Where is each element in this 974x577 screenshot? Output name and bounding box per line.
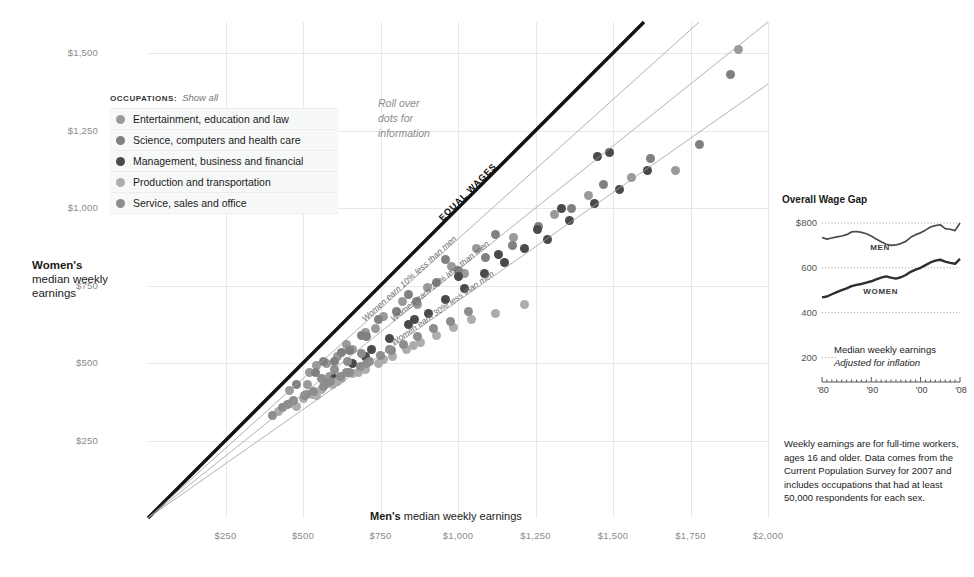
- y-tick-label: $1,000: [40, 202, 98, 213]
- inset-x-tick-label: '00: [911, 385, 933, 395]
- y-axis-title: Women's median weekly earnings: [32, 258, 137, 300]
- legend-header-label: OCCUPATIONS:: [110, 94, 177, 103]
- scatter-dot[interactable]: [726, 70, 735, 79]
- x-tick-label: $500: [283, 530, 323, 541]
- scatter-dot[interactable]: [362, 332, 371, 341]
- legend-dot-icon: [116, 178, 125, 187]
- inset-note-line-2: Adjusted for inflation: [834, 357, 920, 368]
- scatter-dot[interactable]: [446, 317, 455, 326]
- gridline-vertical: [613, 22, 614, 518]
- scatter-dot[interactable]: [491, 309, 500, 318]
- scatter-dot[interactable]: [643, 166, 652, 175]
- gridline-vertical: [691, 22, 692, 518]
- inset-y-tick-label: 400: [782, 307, 817, 318]
- legend-item-2[interactable]: Management, business and financial: [110, 151, 338, 172]
- scatter-dot[interactable]: [467, 315, 476, 324]
- x-axis-title-bold: Men's: [370, 510, 401, 522]
- inset-y-tick-label: $800: [782, 217, 817, 228]
- scatter-dot[interactable]: [283, 400, 292, 409]
- scatter-dot[interactable]: [362, 359, 371, 368]
- rollover-line-2: dots for: [378, 111, 430, 126]
- scatter-dot[interactable]: [627, 173, 636, 182]
- show-all-link[interactable]: Show all: [182, 92, 218, 103]
- scatter-dot[interactable]: [409, 341, 418, 350]
- scatter-dot[interactable]: [319, 357, 328, 366]
- legend-rows[interactable]: Entertainment, education and lawScience,…: [110, 108, 338, 214]
- scatter-dot[interactable]: [500, 258, 509, 267]
- x-tick-label: $1,250: [516, 530, 556, 541]
- scatter-dot[interactable]: [371, 324, 380, 333]
- inset-y-tick-label: 600: [782, 262, 817, 273]
- rollover-line-1: Roll over: [378, 96, 430, 111]
- scatter-dot[interactable]: [374, 315, 383, 324]
- scatter-dot[interactable]: [337, 348, 346, 357]
- scatter-dot[interactable]: [646, 154, 655, 163]
- x-tick-label: $1,000: [438, 530, 478, 541]
- scatter-dot[interactable]: [494, 250, 503, 259]
- inset-y-tick-label: 200: [782, 352, 817, 363]
- legend-item-label: Entertainment, education and law: [133, 113, 289, 125]
- overall-wage-gap-inset: Overall Wage Gap $800600400200MENWOMEN'8…: [782, 194, 962, 409]
- scatter-dot[interactable]: [671, 166, 680, 175]
- legend-item-4[interactable]: Service, sales and office: [110, 193, 338, 214]
- x-tick-label: $1,500: [593, 530, 633, 541]
- inset-series-label-women: WOMEN: [863, 287, 898, 296]
- y-axis-title-rest: median weekly earnings: [32, 273, 108, 299]
- scatter-dot[interactable]: [557, 204, 566, 213]
- scatter-dot[interactable]: [302, 390, 311, 399]
- scatter-dot[interactable]: [590, 199, 599, 208]
- inset-x-tick-label: '90: [861, 385, 883, 395]
- scatter-dot[interactable]: [481, 253, 490, 262]
- legend-header: OCCUPATIONS:Show all: [110, 92, 338, 103]
- scatter-dot[interactable]: [615, 185, 624, 194]
- y-tick-label: $250: [40, 435, 98, 446]
- inset-note-line-1: Median weekly earnings: [834, 344, 936, 355]
- legend-dot-icon: [116, 199, 125, 208]
- legend-item-label: Science, computers and health care: [133, 134, 301, 146]
- scatter-dot[interactable]: [543, 235, 552, 244]
- footnote-text: Weekly earnings are for full-time worker…: [784, 437, 964, 505]
- scatter-dot[interactable]: [292, 380, 301, 389]
- rollover-line-3: information: [378, 126, 430, 141]
- scatter-dot[interactable]: [345, 346, 354, 355]
- scatter-dot[interactable]: [533, 225, 542, 234]
- scatter-dot[interactable]: [520, 300, 529, 309]
- scatter-dot[interactable]: [330, 365, 339, 374]
- scatter-dot[interactable]: [565, 216, 574, 225]
- x-tick-label: $750: [361, 530, 401, 541]
- scatter-dot[interactable]: [441, 255, 450, 264]
- legend-item-1[interactable]: Science, computers and health care: [110, 130, 338, 151]
- occupations-legend[interactable]: OCCUPATIONS:Show all Entertainment, educ…: [110, 92, 338, 214]
- legend-dot-icon: [116, 115, 125, 124]
- inset-x-tick-label: '80: [812, 385, 834, 395]
- legend-item-label: Service, sales and office: [133, 197, 247, 209]
- y-axis-title-bold: Women's: [32, 258, 137, 272]
- rollover-hint: Roll over dots for information: [378, 96, 430, 141]
- legend-item-label: Production and transportation: [133, 176, 271, 188]
- inset-series-line: [822, 223, 960, 245]
- chart-canvas: $1,500$1,250$1,000$750$500$250 $250$500$…: [0, 0, 974, 577]
- scatter-dot[interactable]: [567, 204, 576, 213]
- scatter-dot[interactable]: [520, 244, 529, 253]
- scatter-dot[interactable]: [599, 180, 608, 189]
- x-tick-label: $250: [206, 530, 246, 541]
- legend-item-3[interactable]: Production and transportation: [110, 172, 338, 193]
- scatter-dot[interactable]: [491, 230, 500, 239]
- scatter-dot[interactable]: [593, 152, 602, 161]
- legend-item-0[interactable]: Entertainment, education and law: [110, 108, 338, 130]
- inset-title: Overall Wage Gap: [782, 194, 962, 205]
- y-tick-label: $500: [40, 357, 98, 368]
- scatter-dot[interactable]: [376, 351, 385, 360]
- inset-note: Median weekly earnings Adjusted for infl…: [834, 344, 969, 369]
- scatter-dot[interactable]: [695, 140, 704, 149]
- y-tick-label: $1,500: [40, 47, 98, 58]
- y-tick-label: $1,250: [40, 125, 98, 136]
- legend-dot-icon: [116, 157, 125, 166]
- x-axis-title-rest: median weekly earnings: [401, 510, 522, 522]
- x-tick-label: $1,750: [671, 530, 711, 541]
- scatter-dot[interactable]: [508, 241, 517, 250]
- legend-item-label: Management, business and financial: [133, 155, 303, 167]
- legend-dot-icon: [116, 136, 125, 145]
- scatter-dot[interactable]: [268, 411, 277, 420]
- x-tick-label: $2,000: [748, 530, 788, 541]
